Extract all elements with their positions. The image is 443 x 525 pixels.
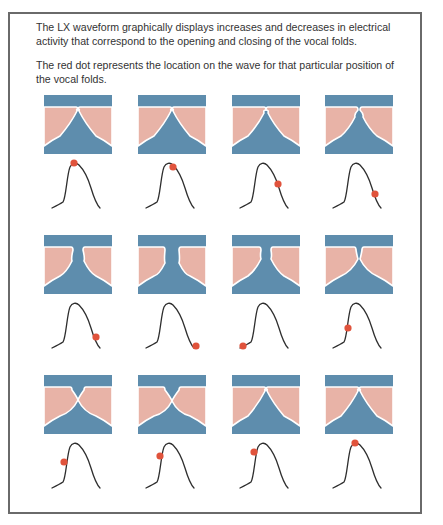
vocal-fold-panel (232, 375, 300, 434)
waveform-line (52, 163, 100, 208)
waveform-line (333, 443, 381, 488)
vocal-fold-panel (232, 95, 300, 154)
lx-waveform (240, 442, 296, 490)
position-dot (60, 458, 67, 465)
position-dot (371, 190, 378, 197)
lx-waveform (146, 302, 202, 350)
lx-waveform (52, 442, 108, 490)
waveform-line (146, 303, 194, 348)
vocal-fold-panel (138, 95, 206, 154)
position-dot (351, 439, 358, 446)
lx-waveform (333, 442, 389, 490)
lx-waveform (146, 162, 202, 210)
position-dot (92, 333, 99, 340)
vocal-fold-panel (44, 235, 112, 294)
vocal-fold-panel (325, 235, 393, 294)
waveform-line (333, 303, 381, 348)
waveform-line (240, 443, 288, 488)
vocal-fold-panel (44, 375, 112, 434)
vocal-fold-panel (44, 95, 112, 154)
lx-waveform (52, 302, 108, 350)
waveform-line (52, 303, 100, 348)
intro-paragraph-1: The LX waveform graphically displays inc… (36, 20, 408, 48)
waveform-line (333, 163, 381, 208)
lx-waveform (333, 302, 389, 350)
position-dot (344, 324, 351, 331)
lx-waveform (240, 302, 296, 350)
position-dot (192, 342, 199, 349)
vocal-fold-panel (138, 375, 206, 434)
position-dot (250, 448, 257, 455)
position-dot (156, 452, 163, 459)
lx-waveform (52, 162, 108, 210)
position-dot (70, 159, 77, 166)
waveform-line (52, 443, 100, 488)
intro-text: The LX waveform graphically displays inc… (36, 20, 408, 96)
position-dot (274, 180, 281, 187)
vocal-fold-panel (325, 375, 393, 434)
lx-waveform (333, 162, 389, 210)
vocal-fold-panel (232, 235, 300, 294)
intro-paragraph-2: The red dot represents the location on t… (36, 58, 408, 86)
position-dot (169, 163, 176, 170)
vocal-fold-panel (325, 95, 393, 154)
vocal-fold-panel (138, 235, 206, 294)
waveform-line (146, 163, 194, 208)
waveform-line (240, 303, 288, 348)
lx-waveform (146, 442, 202, 490)
waveform-line (146, 443, 194, 488)
position-dot (239, 342, 246, 349)
lx-waveform (240, 162, 296, 210)
